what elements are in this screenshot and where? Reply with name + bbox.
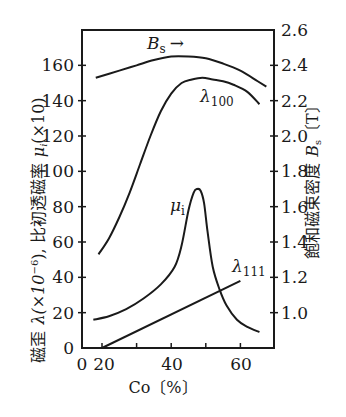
right-tick-label: 1.0: [281, 303, 308, 323]
right-tick-label: 2.4: [281, 55, 308, 75]
left-tick-label: 0: [63, 338, 74, 358]
bs-curve: [96, 56, 267, 86]
left-axis-label: 磁歪λ(×10−6), 比初透磁率μi(×10): [29, 97, 49, 362]
lambda100-label: λ100: [199, 86, 234, 109]
left-tick-label: 40: [52, 267, 74, 287]
right-tick-label: 1.2: [281, 267, 308, 287]
chart-canvas: 020406080100120140160 1.01.21.41.61.82.0…: [0, 0, 346, 417]
x-tick-60: 60: [230, 354, 252, 374]
mu-i-label: μi: [170, 195, 185, 218]
lambda111-label: λ111: [231, 256, 266, 279]
left-tick-label: 60: [52, 232, 74, 252]
x-tick-0: 0: [77, 354, 88, 374]
right-tick-label: 2.6: [281, 20, 308, 40]
lambda100-curve: [99, 78, 260, 255]
left-tick-label: 20: [52, 303, 74, 323]
plot-frame: [82, 30, 274, 348]
x-tick-40: 40: [161, 354, 183, 374]
x-tick-20: 20: [93, 354, 115, 374]
bs-curve-label: Bs→: [146, 33, 184, 56]
left-tick-label: 80: [52, 197, 74, 217]
right-axis-label: 飽和磁束密度Bs〔T〕: [303, 97, 323, 259]
lambda111-curve: [102, 281, 240, 348]
left-tick-label: 160: [42, 55, 74, 75]
left-axis-ticks: 020406080100120140160: [42, 55, 86, 358]
x-axis-label: Co〔%〕: [128, 378, 197, 397]
